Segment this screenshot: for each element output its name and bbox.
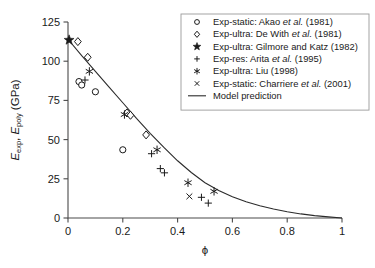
series-circle-open: [76, 78, 126, 152]
x-tick-label: 0.4: [170, 225, 185, 237]
legend-marker-circle-open: [195, 20, 200, 25]
legend-label: Exp-static: Akao et al. (1981): [213, 16, 333, 27]
x-tick-label: 1: [339, 225, 345, 237]
x-axis-label: ϕ: [202, 244, 208, 256]
y-tick-label: 125: [42, 16, 60, 28]
legend-label: Model prediction: [213, 90, 282, 101]
series-cross: [186, 193, 192, 199]
y-tick-label: 0: [54, 212, 60, 224]
legend-label: Exp-res: Arita et al. (1995): [213, 53, 322, 64]
scatter-plot: 025507510012500.20.40.60.81 ϕEexp, Epoly…: [0, 0, 375, 268]
y-tick-label: 100: [42, 55, 60, 67]
legend-label: Exp-static: Charriere et al. (2001): [213, 78, 351, 89]
series-star-solid: [64, 35, 74, 44]
legend-label: Exp-ultra: Liu (1998): [213, 65, 298, 76]
x-tick-label: 0.6: [225, 225, 240, 237]
chart-figure: 025507510012500.20.40.60.81 ϕEexp, Epoly…: [0, 0, 375, 268]
x-tick-label: 0.2: [115, 225, 130, 237]
y-tick-label: 75: [48, 94, 60, 106]
x-tick-label: 0.8: [280, 225, 295, 237]
y-tick-label: 50: [48, 134, 60, 146]
legend: Exp-static: Akao et al. (1981)Exp-ultra:…: [181, 14, 369, 110]
series-diamond-open: [74, 38, 149, 139]
y-axis-label: Eexp, Epoly (GPa): [9, 79, 23, 160]
legend-label: Exp-ultra: De With et al. (1981): [213, 28, 342, 39]
legend-label: Exp-ultra: Gilmore and Katz (1982): [213, 41, 358, 52]
x-tick-label: 0: [65, 225, 71, 237]
y-tick-label: 25: [48, 173, 60, 185]
